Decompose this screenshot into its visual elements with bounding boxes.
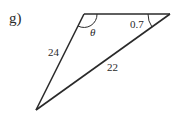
theta-label: θ: [90, 27, 95, 38]
hypotenuse-side: [36, 14, 170, 110]
side-label-24: 24: [48, 47, 59, 58]
angle-label-0-7: 0.7: [130, 19, 144, 30]
side-label-22: 22: [107, 62, 118, 73]
part-label: g): [9, 11, 22, 26]
triangle-diagram: g) θ 0.7 24 22: [0, 0, 181, 120]
right-angle-arc: [148, 14, 152, 27]
left-side: [36, 14, 84, 110]
triangle-figure: [0, 0, 181, 120]
